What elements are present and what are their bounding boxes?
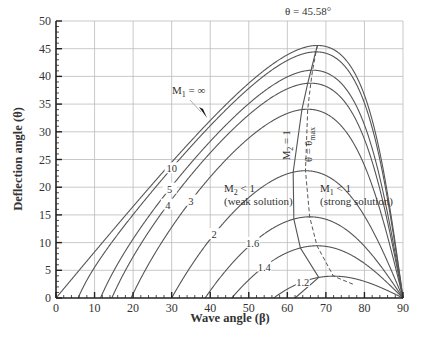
- x-tick-label: 60: [281, 301, 293, 315]
- y-tick-label: 10: [39, 236, 51, 250]
- m1-infinity-pointer: [190, 100, 201, 112]
- theta-beta-mach-chart: 010203040506070809005101520253035404550 …: [0, 0, 428, 340]
- svg-text:θ = θmax: θ = θmax: [303, 127, 317, 162]
- theta-max-line: [305, 45, 352, 284]
- weak-solution-annotation: M2 < 1 (weak solution): [224, 182, 293, 208]
- x-tick-label: 80: [358, 301, 370, 315]
- sonic-line-label: M2 = 1: [281, 130, 295, 160]
- x-tick-label: 30: [166, 301, 178, 315]
- y-tick-label: 15: [39, 208, 51, 222]
- mach-curves: [56, 45, 403, 298]
- y-tick-label: 35: [39, 97, 51, 111]
- mach-curve-label: 1.4: [258, 262, 272, 273]
- boundary-lines: [293, 45, 353, 298]
- y-tick-label: 0: [45, 291, 51, 305]
- arrowhead-icon: [199, 107, 207, 118]
- grid-lines: [56, 21, 403, 298]
- x-tick-label: 20: [127, 301, 139, 315]
- svg-text:M2 = 1: M2 = 1: [281, 130, 295, 160]
- svg-text:M1 = ∞: M1 = ∞: [172, 84, 205, 99]
- mach-curve: [56, 45, 403, 298]
- y-tick-label: 30: [39, 125, 51, 139]
- mach-curve-label: 5: [167, 184, 172, 195]
- y-tick-label: 50: [39, 14, 51, 28]
- m1-infinity-annotation: M1 = ∞: [172, 84, 207, 118]
- y-tick-label: 40: [39, 69, 51, 83]
- y-tick-label: 5: [45, 263, 51, 277]
- x-axis-title: Wave angle (β): [190, 311, 270, 325]
- theta-max-global-label: θ = 45.58°: [285, 5, 331, 17]
- x-tick-label: 70: [320, 301, 332, 315]
- mach-curve-label: 4: [165, 200, 171, 211]
- mach-curve-label: 10: [166, 163, 177, 174]
- theta-max-line-label: θ = θmax: [303, 127, 317, 162]
- y-axis-title: Deflection angle (θ): [11, 107, 25, 211]
- mach-curve-label: 1.2: [296, 277, 309, 288]
- strong-solution-annotation: M1 < 1 (strong solution): [320, 182, 393, 208]
- mach-curve-label: 1.6: [246, 238, 259, 249]
- mach-curve-label: 2: [211, 229, 216, 240]
- y-tick-label: 20: [39, 180, 51, 194]
- y-tick-label: 25: [39, 153, 51, 167]
- svg-text:(strong solution): (strong solution): [320, 195, 393, 208]
- x-tick-label: 90: [397, 301, 409, 315]
- svg-text:(weak solution): (weak solution): [224, 195, 293, 208]
- mach-curve-label: 3: [188, 196, 193, 207]
- y-tick-label: 45: [39, 42, 51, 56]
- x-tick-label: 0: [53, 301, 59, 315]
- x-tick-label: 10: [89, 301, 101, 315]
- mach-curve: [78, 52, 403, 298]
